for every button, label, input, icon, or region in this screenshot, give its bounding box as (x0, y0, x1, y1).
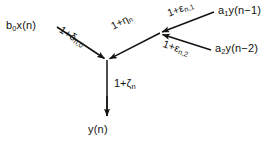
terminal-label-output-y: y(n) (88, 124, 108, 135)
terminal-label-feedback-y2: a2y(n−2) (215, 43, 258, 55)
terminal-label-feedback-y1: a1y(n−1) (218, 5, 261, 17)
diagram-canvas (0, 0, 277, 145)
edge-feedback-sum-branch (110, 33, 161, 59)
gain-label-output-branch: 1+ζn (114, 78, 136, 90)
signal-flow-diagram: b0x(n) a1y(n−1) a2y(n−2) y(n) 1+δn,0 1+η… (0, 0, 277, 145)
terminal-label-input-x: b0x(n) (6, 20, 36, 32)
